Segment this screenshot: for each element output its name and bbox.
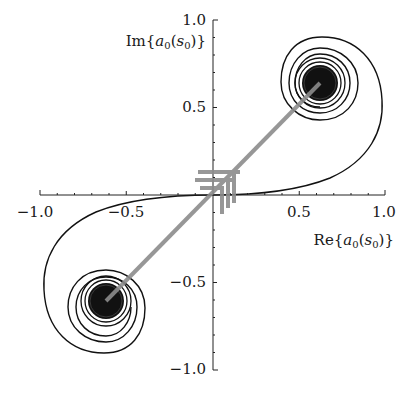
y-tick-label: 0.5: [182, 98, 206, 116]
x-tick-label: 1.0: [372, 203, 396, 221]
x-tick-label: −0.5: [108, 203, 144, 221]
y-tick-label: −1.0: [170, 360, 206, 378]
y-tick-label: 1.0: [182, 11, 206, 29]
complex-plane-plot: −1.0 −0.5 0.5 1.0 1.0 0.5 −0.5 −1.0 Im{a…: [0, 0, 404, 393]
x-tick-label: −1.0: [17, 203, 53, 221]
y-axis-label: Im{a0(s0)}: [126, 32, 206, 51]
y-tick-label: −0.5: [170, 273, 206, 291]
x-axis-label: Re{a0(s0)}: [314, 231, 394, 250]
x-tick-labels: −1.0 −0.5 0.5 1.0: [17, 203, 396, 221]
x-tick-label: 0.5: [287, 203, 311, 221]
